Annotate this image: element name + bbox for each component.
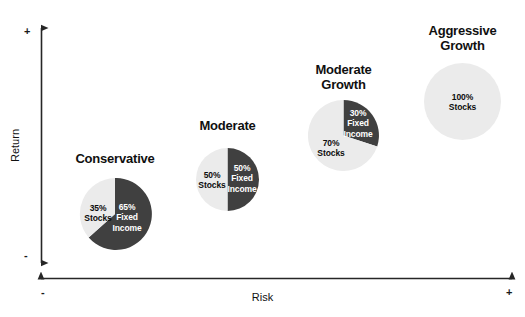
portfolio-conservative: Conservative 35% Stocks 65% Fixed Income bbox=[78, 152, 152, 248]
y-axis-negative-sign: - bbox=[24, 250, 28, 261]
slice-label-stocks: 100% Stocks bbox=[449, 92, 476, 113]
portfolio-title-line: Moderate bbox=[199, 118, 255, 133]
x-axis-label: Risk bbox=[0, 292, 525, 303]
portfolio-aggressive-growth: Aggressive Growth 100% Stocks bbox=[424, 24, 501, 140]
slice-label-line: 50% bbox=[227, 163, 256, 173]
portfolio-title-line: Growth bbox=[428, 39, 496, 54]
slice-label-fixed-income: 30% Fixed Income bbox=[343, 108, 372, 139]
portfolio-title-moderate-growth: Moderate Growth bbox=[315, 63, 371, 92]
slice-label-fixed-income: 50% Fixed Income bbox=[227, 163, 256, 194]
slice-label-line: 30% bbox=[343, 108, 372, 118]
slice-label-stocks: 50% Stocks bbox=[198, 170, 225, 191]
slice-label-line: Stocks bbox=[449, 102, 476, 112]
portfolio-title-aggressive-growth: Aggressive Growth bbox=[428, 24, 496, 53]
portfolio-title-line: Moderate bbox=[315, 63, 371, 78]
portfolio-title-line: Aggressive bbox=[428, 24, 496, 39]
risk-return-chart: + - - + Return Risk Conservative 35% Sto… bbox=[0, 0, 525, 317]
portfolio-moderate-growth: Moderate Growth 70% Stocks 30% Fixed Inc… bbox=[308, 63, 379, 172]
y-axis-label: Return bbox=[10, 116, 21, 176]
portfolio-moderate: Moderate 50% Stocks 50% Fixed Income bbox=[196, 119, 259, 211]
slice-label-line: 70% bbox=[317, 138, 344, 148]
slice-label-line: 35% bbox=[84, 203, 111, 213]
slice-label-line: 100% bbox=[449, 92, 476, 102]
slice-label-line: Stocks bbox=[198, 180, 225, 190]
portfolio-title-conservative: Conservative bbox=[75, 152, 154, 167]
slice-label-fixed-income: 65% Fixed Income bbox=[112, 202, 141, 233]
portfolio-title-moderate: Moderate bbox=[199, 119, 255, 134]
slice-label-line: Fixed bbox=[112, 213, 141, 223]
slice-label-line: Fixed bbox=[227, 174, 256, 184]
slice-label-line: Stocks bbox=[317, 148, 344, 158]
slice-label-line: 50% bbox=[198, 170, 225, 180]
slice-label-line: Stocks bbox=[84, 213, 111, 223]
pie-moderate-growth: 70% Stocks 30% Fixed Income bbox=[308, 100, 379, 171]
slice-label-line: Fixed bbox=[343, 119, 372, 129]
slice-label-line: Income bbox=[112, 223, 141, 233]
portfolio-title-line: Growth bbox=[315, 78, 371, 93]
pie-aggressive-growth: 100% Stocks bbox=[424, 63, 501, 140]
slice-label-line: 65% bbox=[112, 202, 141, 212]
portfolio-title-line: Conservative bbox=[75, 151, 154, 166]
slice-label-stocks: 70% Stocks bbox=[317, 138, 344, 159]
slice-label-line: Income bbox=[227, 184, 256, 194]
pie-moderate: 50% Stocks 50% Fixed Income bbox=[196, 148, 259, 211]
pie-conservative: 35% Stocks 65% Fixed Income bbox=[78, 178, 152, 250]
y-axis-positive-sign: + bbox=[24, 26, 30, 37]
slice-label-stocks: 35% Stocks bbox=[84, 203, 111, 224]
slice-label-line: Income bbox=[343, 129, 372, 139]
